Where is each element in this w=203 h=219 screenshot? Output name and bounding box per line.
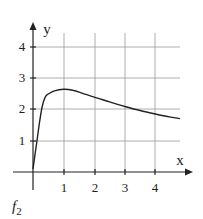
y-tick-label-3: 3 <box>19 70 26 85</box>
function-plot: 1 2 3 4 1 2 3 4 x y <box>0 0 203 219</box>
x-tick-label-3: 3 <box>122 180 129 195</box>
grid <box>33 33 180 172</box>
x-tick-label-2: 2 <box>92 180 99 195</box>
y-axis-arrow-icon <box>30 22 37 30</box>
y-tick-label-1: 1 <box>19 133 26 148</box>
x-axis-label: x <box>176 152 184 168</box>
y-axis-label: y <box>43 21 51 37</box>
caption-subscript: 2 <box>16 205 22 217</box>
y-tick-label-4: 4 <box>19 39 26 54</box>
y-tick-label-2: 2 <box>19 101 26 116</box>
f2-curve <box>33 89 180 169</box>
x-tick-label-1: 1 <box>61 180 68 195</box>
x-axis-arrow-icon <box>185 169 193 176</box>
figure-caption: f2 <box>12 198 22 217</box>
x-tick-label-4: 4 <box>152 180 159 195</box>
